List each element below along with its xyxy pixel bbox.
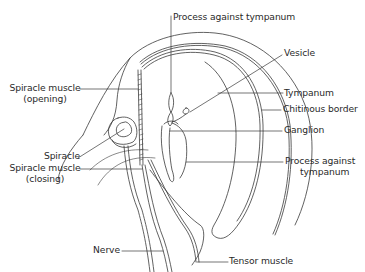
process-bottom [161, 126, 173, 182]
label-chitinous-border: Chitinous border [283, 104, 358, 115]
label-process-against-tympanum-bottom: Process against tympanum [285, 156, 355, 177]
label-tensor-muscle: Tensor muscle [229, 256, 293, 267]
nerve-bundle [124, 146, 150, 272]
body-left-wall [104, 58, 130, 135]
spiracle-outline [108, 117, 136, 144]
tympanal-organ-diagram: Process against tympanum Vesicle Spiracl… [0, 0, 365, 272]
label-tympanum: Tympanum [284, 88, 334, 99]
outer-body-wall [83, 32, 312, 225]
label-process-bottom-line2: tympanum [285, 167, 355, 178]
label-spiracle-muscle-opening: Spiracle muscle (opening) [8, 83, 82, 104]
label-spiracle-muscle-closing: Spiracle muscle (closing) [8, 163, 82, 184]
label-spiracle-muscle-opening-line1: Spiracle muscle [8, 83, 82, 94]
label-nerve: Nerve [80, 245, 120, 256]
diagram-drawing [0, 0, 365, 272]
label-ganglion: Ganglion [284, 125, 324, 136]
chitinous-border-outline [140, 43, 291, 235]
label-spiracle-muscle-opening-line2: (opening) [8, 94, 82, 105]
label-process-against-tympanum-top: Process against tympanum [173, 12, 295, 23]
leader-vesicle [190, 55, 282, 112]
process-top [169, 93, 174, 112]
label-spiracle: Spiracle [30, 151, 80, 162]
vesicle [183, 108, 189, 114]
label-process-bottom-line1: Process against [285, 156, 355, 167]
label-spiracle-muscle-closing-line1: Spiracle muscle [8, 163, 82, 174]
label-vesicle: Vesicle [284, 48, 315, 59]
label-spiracle-muscle-closing-line2: (closing) [8, 174, 82, 185]
